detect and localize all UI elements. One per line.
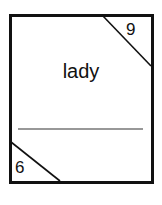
card-word: lady (0, 61, 162, 81)
top-right-number: 9 (126, 21, 135, 38)
bottom-left-number: 6 (15, 159, 24, 176)
